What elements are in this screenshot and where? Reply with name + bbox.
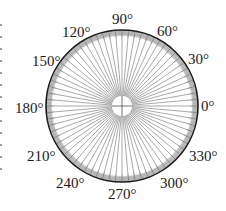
label-270-deg: 270° <box>108 187 137 202</box>
label-60-deg: 60° <box>157 24 178 39</box>
label-330-deg: 330° <box>189 149 218 164</box>
label-120-deg: 120° <box>62 25 91 40</box>
label-0-deg: 0° <box>201 99 215 114</box>
label-150-deg: 150° <box>32 54 61 69</box>
label-180-deg: 180° <box>15 101 44 116</box>
protractor-diagram: 0° 30° 60° 90° 120° 150° 180° 210° 240° … <box>0 0 226 211</box>
label-240-deg: 240° <box>56 176 85 191</box>
label-300-deg: 300° <box>160 176 189 191</box>
label-90-deg: 90° <box>112 12 133 27</box>
label-210-deg: 210° <box>27 149 56 164</box>
label-30-deg: 30° <box>188 52 209 67</box>
